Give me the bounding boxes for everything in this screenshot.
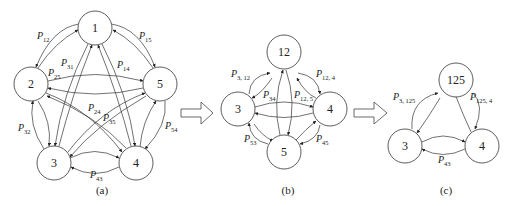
node-label: 125 bbox=[447, 73, 465, 87]
node-label: 4 bbox=[479, 139, 485, 153]
edge-label: P12, 4 bbox=[315, 68, 336, 81]
edge-label: P45 bbox=[315, 133, 329, 146]
panel-c: 125 3 4 P3, 125 P125, 4 P43 (c) bbox=[388, 63, 499, 197]
node-label: 2 bbox=[28, 77, 34, 91]
node-label: 3 bbox=[235, 102, 241, 116]
panel-caption: (a) bbox=[96, 184, 109, 197]
panel-caption: (b) bbox=[282, 184, 295, 197]
edge-label: P35 bbox=[102, 112, 116, 125]
panel-b: 12 3 4 5 P3, 12 P12, 4 P34 P12, 5 P53 P4… bbox=[221, 35, 347, 197]
panel-caption: (c) bbox=[440, 184, 453, 197]
edge-label: P12, 5 bbox=[293, 89, 313, 102]
node-label: 3 bbox=[402, 139, 408, 153]
node-label: 4 bbox=[327, 102, 333, 116]
edge-label: P31 bbox=[60, 57, 74, 70]
edge-label: P32 bbox=[17, 122, 31, 135]
node-label: 1 bbox=[92, 21, 98, 35]
node-label: 5 bbox=[157, 77, 163, 91]
edge-label: P24 bbox=[87, 102, 101, 115]
edge-label: P12 bbox=[36, 30, 50, 43]
state-merge-diagram: 1 2 3 4 5 P12 P15 P31 P14 P25 P24 P35 P3… bbox=[0, 0, 513, 206]
edge-label: P43 bbox=[89, 169, 103, 182]
edge-label: P34 bbox=[262, 89, 276, 102]
edge-label: P14 bbox=[116, 59, 130, 72]
panel-a: 1 2 3 4 5 P12 P15 P31 P14 P25 P24 P35 P3… bbox=[14, 11, 178, 197]
node-label: 5 bbox=[281, 145, 287, 159]
edge-label: P43 bbox=[437, 154, 451, 167]
edge-label: P54 bbox=[164, 120, 178, 133]
edge-label: P3, 12 bbox=[230, 68, 250, 81]
edge-label: P25 bbox=[47, 67, 61, 80]
node-label: 3 bbox=[51, 156, 57, 170]
edge-label: P53 bbox=[243, 133, 257, 146]
edge-label: P125, 4 bbox=[469, 91, 493, 104]
transition-arrow-icon bbox=[354, 102, 387, 124]
transition-arrow-icon bbox=[181, 102, 213, 124]
node-label: 12 bbox=[278, 45, 290, 59]
node-label: 4 bbox=[133, 156, 139, 170]
edge-label: P3, 125 bbox=[392, 91, 415, 104]
